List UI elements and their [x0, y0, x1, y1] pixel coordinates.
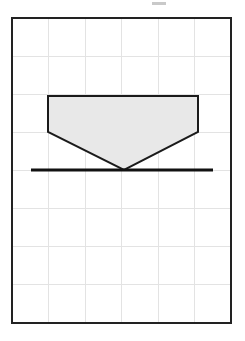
top-crop-artifact: [152, 2, 166, 5]
figure-root: [0, 0, 245, 341]
diagram-canvas: [0, 0, 245, 341]
